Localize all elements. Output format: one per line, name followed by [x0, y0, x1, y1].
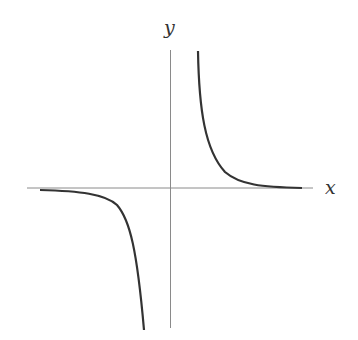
y-axis-label: y — [164, 16, 175, 38]
curve-branch-quadrant-I — [198, 51, 302, 188]
x-axis-label: x — [325, 176, 336, 198]
curve-branch-quadrant-III — [40, 190, 144, 330]
hyperbola-graph — [0, 0, 358, 340]
